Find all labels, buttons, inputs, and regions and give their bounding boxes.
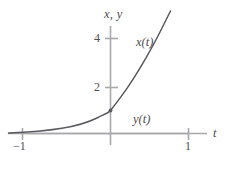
tick-label-y-2: 2 (94, 81, 100, 93)
y-axis-label: x, y (104, 8, 123, 21)
tick-label-x-1: 1 (185, 140, 191, 152)
exponential-growth-figure: x, y t x(t) y(t) 4 2 −1 1 (0, 0, 230, 169)
axis-crossing-marker (109, 109, 113, 113)
tick-label-y-4: 4 (94, 32, 100, 44)
x-axis-label: t (213, 127, 216, 140)
tick-label-x-negative-1: −1 (13, 140, 26, 152)
plot-canvas (0, 0, 230, 169)
curve-label-x-of-t: x(t) (136, 36, 153, 49)
curve-label-y-of-t: y(t) (133, 113, 150, 126)
